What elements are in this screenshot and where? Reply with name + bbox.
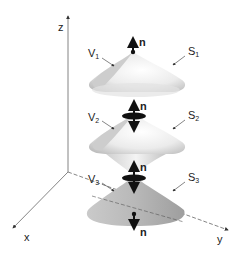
cone-2 <box>89 114 185 176</box>
normal-label-2: n <box>140 101 147 112</box>
stacked-cones-diagram <box>0 0 241 255</box>
y-axis-label: y <box>217 234 223 245</box>
volume-label-v3: V3 <box>88 174 99 186</box>
normal-label-3: n <box>140 162 147 173</box>
z-axis-label: z <box>58 22 64 33</box>
surface-label-s3: S3 <box>188 172 199 184</box>
cone-3 <box>87 176 185 226</box>
volume-label-v1: V1 <box>88 48 99 60</box>
normal-label-4: n <box>140 227 147 238</box>
surface-label-s1: S1 <box>188 46 199 58</box>
volume-label-v2: V2 <box>88 112 99 124</box>
surface-label-s2: S2 <box>188 110 199 122</box>
normal-label-1: n <box>139 37 146 48</box>
x-axis-label: x <box>24 232 30 243</box>
x-axis <box>13 172 68 228</box>
